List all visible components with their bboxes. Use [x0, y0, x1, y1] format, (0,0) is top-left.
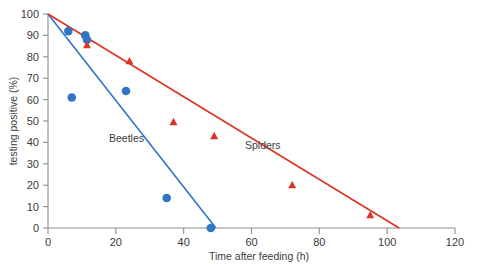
- x-tick-label-0: 0: [45, 236, 51, 248]
- x-tick-label-120: 120: [446, 236, 464, 248]
- y-tick-label-100: 100: [21, 8, 39, 20]
- series-label-spiders: Spiders: [245, 139, 281, 151]
- y-tick-label-20: 20: [27, 179, 39, 191]
- y-tick-label-90: 90: [27, 29, 39, 41]
- x-tick-label-60: 60: [245, 236, 257, 248]
- series-label-beetles: Beetles: [109, 132, 144, 144]
- x-axis-title: Time after feeding (h): [209, 250, 309, 262]
- y-tick-label-50: 50: [27, 115, 39, 127]
- x-tick-label-80: 80: [313, 236, 325, 248]
- y-axis-title: testing positive (%): [7, 77, 19, 166]
- data-point-beetles-0: [64, 27, 73, 36]
- data-point-beetles-6: [207, 224, 216, 233]
- chart-container: 0 10 20 30 40 50 60 70 80 90 100 0 20 40: [0, 0, 486, 264]
- y-tick-label-60: 60: [27, 94, 39, 106]
- scatter-chart: 0 10 20 30 40 50 60 70 80 90 100 0 20 40: [0, 0, 486, 264]
- x-tick-label-40: 40: [178, 236, 190, 248]
- x-tick-label-100: 100: [378, 236, 396, 248]
- data-point-beetles-4: [122, 87, 131, 96]
- y-tick-label-0: 0: [33, 222, 39, 234]
- y-tick-label-10: 10: [27, 201, 39, 213]
- x-tick-label-20: 20: [110, 236, 122, 248]
- data-point-beetles-1: [67, 93, 76, 102]
- y-tick-label-70: 70: [27, 72, 39, 84]
- y-tick-label-30: 30: [27, 158, 39, 170]
- data-point-beetles-5: [162, 194, 171, 203]
- y-tick-label-40: 40: [27, 136, 39, 148]
- y-tick-label-80: 80: [27, 51, 39, 63]
